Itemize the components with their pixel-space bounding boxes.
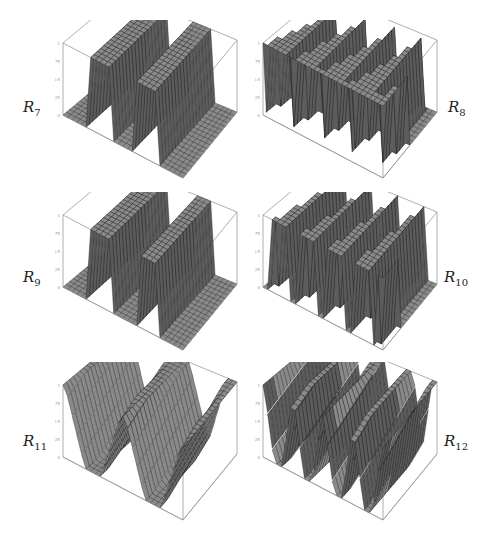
svg-text:1: 1 xyxy=(257,213,260,218)
svg-text:0.25: 0.25 xyxy=(255,267,260,272)
panel-label-r10: R10 xyxy=(444,268,468,288)
svg-text:0.75: 0.75 xyxy=(55,401,60,406)
svg-text:0.25: 0.25 xyxy=(255,95,260,100)
svg-text:0.75: 0.75 xyxy=(255,59,260,64)
svg-text:0.25: 0.25 xyxy=(255,437,260,442)
svg-text:0: 0 xyxy=(57,113,60,118)
surface-plot-r8: 10.750.50.250 xyxy=(255,20,440,190)
svg-text:0.75: 0.75 xyxy=(255,401,260,406)
label-sub: 8 xyxy=(459,107,465,118)
label-base: R xyxy=(444,432,455,450)
label-sub: 7 xyxy=(34,107,40,118)
svg-text:0.5: 0.5 xyxy=(55,77,60,82)
svg-text:0.25: 0.25 xyxy=(55,95,60,100)
label-base: R xyxy=(23,432,34,450)
svg-text:0.5: 0.5 xyxy=(255,419,260,424)
svg-text:0: 0 xyxy=(257,285,260,290)
svg-text:0.75: 0.75 xyxy=(55,59,60,64)
svg-text:1: 1 xyxy=(257,383,260,388)
svg-text:0.5: 0.5 xyxy=(55,249,60,254)
svg-text:0.75: 0.75 xyxy=(55,231,60,236)
svg-text:0: 0 xyxy=(257,455,260,460)
label-base: R xyxy=(23,98,34,116)
svg-text:1: 1 xyxy=(257,41,260,46)
surface-plot-r9: 10.750.50.250 xyxy=(55,192,240,362)
panel-label-r12: R12 xyxy=(444,432,468,452)
svg-text:0.75: 0.75 xyxy=(255,231,260,236)
surface-plot-r7: 10.750.50.250 xyxy=(55,20,240,190)
svg-text:0.25: 0.25 xyxy=(55,437,60,442)
label-base: R xyxy=(23,268,34,286)
label-sub: 12 xyxy=(455,441,468,452)
panel-label-r8: R8 xyxy=(448,98,466,118)
surface-plot-r11: 10.750.50.250 xyxy=(55,362,240,532)
svg-text:0.5: 0.5 xyxy=(255,77,260,82)
svg-text:0.25: 0.25 xyxy=(55,267,60,272)
panel-label-r7: R7 xyxy=(23,98,41,118)
svg-text:0.5: 0.5 xyxy=(255,249,260,254)
label-sub: 11 xyxy=(34,441,47,452)
label-base: R xyxy=(444,268,455,286)
svg-text:0: 0 xyxy=(57,455,60,460)
svg-text:1: 1 xyxy=(57,383,60,388)
surface-plot-r12: 10.750.50.250 xyxy=(255,362,440,532)
svg-text:1: 1 xyxy=(57,41,60,46)
svg-text:0: 0 xyxy=(257,113,260,118)
svg-text:0: 0 xyxy=(57,285,60,290)
svg-text:0.5: 0.5 xyxy=(55,419,60,424)
panel-label-r11: R11 xyxy=(23,432,47,452)
label-base: R xyxy=(448,98,459,116)
surface-plot-r10: 10.750.50.250 xyxy=(255,192,440,362)
label-sub: 9 xyxy=(34,277,40,288)
svg-text:1: 1 xyxy=(57,213,60,218)
label-sub: 10 xyxy=(455,277,468,288)
panel-label-r9: R9 xyxy=(23,268,41,288)
